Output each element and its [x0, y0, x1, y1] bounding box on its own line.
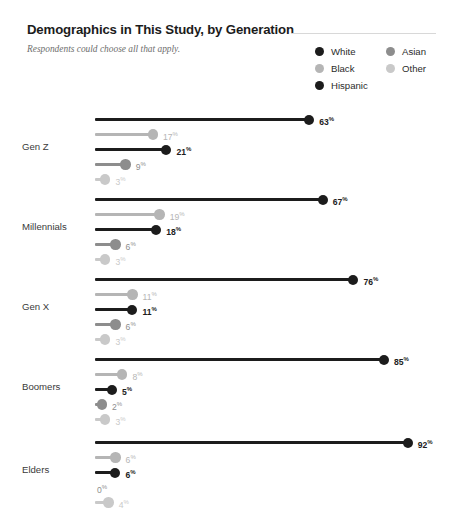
value-label: 18% — [166, 226, 181, 236]
value-label: 6% — [126, 321, 136, 331]
lollipop-dot[interactable] — [97, 399, 107, 409]
series-row-black[interactable]: 17% — [0, 127, 459, 142]
series-row-white[interactable]: 85% — [0, 352, 459, 367]
value-label: 6% — [125, 469, 135, 479]
value-label: 5% — [122, 386, 132, 396]
lollipop-dot[interactable] — [110, 468, 120, 478]
series-row-asian[interactable]: 0% — [0, 480, 459, 495]
lollipop-stem — [95, 358, 381, 360]
series-row-other[interactable]: 4% — [0, 495, 459, 510]
series-row-black[interactable]: 6% — [0, 450, 459, 465]
legend-item-hispanic[interactable]: Hispanic — [315, 77, 368, 93]
series-row-black[interactable]: 8% — [0, 367, 459, 382]
lollipop-stem — [95, 293, 129, 295]
series-row-white[interactable]: 63% — [0, 112, 459, 127]
legend-item-other[interactable]: Other — [386, 60, 426, 76]
legend-column-2: AsianOther — [386, 43, 426, 77]
lollipop-stem — [95, 441, 405, 443]
legend-item-white[interactable]: White — [315, 43, 368, 59]
series-row-asian[interactable]: 6% — [0, 317, 459, 332]
series-row-hispanic[interactable]: 6% — [0, 465, 459, 480]
lollipop-stem — [95, 213, 156, 215]
lollipop-dot[interactable] — [103, 497, 113, 507]
series-row-hispanic[interactable]: 11% — [0, 302, 459, 317]
value-label: 0% — [97, 484, 107, 494]
lollipop-dot[interactable] — [379, 355, 389, 365]
value-label: 6% — [126, 454, 136, 464]
series-row-white[interactable]: 67% — [0, 192, 459, 207]
chart-subtitle: Respondents could choose all that apply. — [27, 44, 180, 54]
lollipop-dot[interactable] — [304, 115, 314, 125]
legend-label: Other — [402, 63, 426, 74]
lollipop-dot[interactable] — [127, 305, 137, 315]
value-label: 4% — [119, 499, 129, 509]
series-row-asian[interactable]: 2% — [0, 397, 459, 412]
legend-label: Hispanic — [331, 80, 368, 91]
lollipop-dot[interactable] — [100, 414, 110, 424]
legend-label: White — [331, 46, 356, 57]
value-label: 17% — [163, 131, 178, 141]
value-label: 76% — [363, 276, 378, 286]
generation-group: Gen X76%11%11%6%3% — [0, 262, 459, 342]
lollipop-dot[interactable] — [110, 319, 120, 329]
generation-group: Gen Z63%17%21%9%3% — [0, 102, 459, 182]
value-label: 9% — [136, 161, 146, 171]
value-label: 2% — [112, 401, 122, 411]
lollipop-stem — [95, 148, 163, 150]
value-label: 19% — [170, 211, 185, 221]
series-row-white[interactable]: 76% — [0, 272, 459, 287]
lollipop-stem — [95, 163, 122, 165]
generation-group: Boomers85%8%5%2%3% — [0, 342, 459, 422]
legend-item-asian[interactable]: Asian — [386, 43, 426, 59]
generation-group: Millennials67%19%18%6%3% — [0, 182, 459, 262]
chart-plot-area: Gen Z63%17%21%9%3%Millennials67%19%18%6%… — [0, 100, 459, 527]
value-label: 11% — [143, 291, 157, 301]
value-label: 92% — [418, 439, 433, 449]
series-row-asian[interactable]: 6% — [0, 237, 459, 252]
lollipop-dot[interactable] — [127, 289, 137, 299]
lollipop-stem — [95, 278, 350, 280]
lollipop-dot[interactable] — [154, 209, 164, 219]
lollipop-dot[interactable] — [117, 369, 127, 379]
generation-group: Elders92%6%6%0%4% — [0, 425, 459, 505]
lollipop-stem — [95, 198, 320, 200]
lollipop-dot[interactable] — [151, 225, 161, 235]
lollipop-dot[interactable] — [403, 438, 413, 448]
value-label: 67% — [333, 196, 348, 206]
lollipop-dot[interactable] — [110, 452, 120, 462]
lollipop-dot[interactable] — [318, 195, 328, 205]
lollipop-stem — [95, 373, 119, 375]
legend-swatch-icon — [386, 47, 395, 56]
lollipop-stem — [95, 308, 129, 310]
legend-swatch-icon — [315, 47, 324, 56]
value-label: 63% — [319, 116, 334, 126]
lollipop-dot[interactable] — [348, 275, 358, 285]
series-row-hispanic[interactable]: 21% — [0, 142, 459, 157]
series-row-black[interactable]: 11% — [0, 287, 459, 302]
series-row-white[interactable]: 92% — [0, 435, 459, 450]
legend-label: Asian — [402, 46, 426, 57]
lollipop-dot[interactable] — [161, 145, 171, 155]
lollipop-stem — [95, 228, 153, 230]
lollipop-dot[interactable] — [120, 159, 130, 169]
chart-header: Demographics in This Study, by Generatio… — [0, 0, 459, 100]
lollipop-stem — [95, 118, 306, 120]
lollipop-dot[interactable] — [110, 239, 120, 249]
legend-item-black[interactable]: Black — [315, 60, 368, 76]
legend-label: Black — [331, 63, 354, 74]
lollipop-dot[interactable] — [148, 129, 158, 139]
value-label: 8% — [132, 371, 142, 381]
legend-swatch-icon — [315, 81, 324, 90]
legend-column-1: WhiteBlackHispanic — [315, 43, 368, 94]
series-row-hispanic[interactable]: 18% — [0, 222, 459, 237]
series-row-asian[interactable]: 9% — [0, 157, 459, 172]
legend-swatch-icon — [315, 64, 324, 73]
chart-legend: WhiteBlackHispanicAsianOther — [315, 43, 459, 95]
series-row-black[interactable]: 19% — [0, 207, 459, 222]
lollipop-dot[interactable] — [107, 385, 117, 395]
lollipop-stem — [95, 133, 150, 135]
page-title: Demographics in This Study, by Generatio… — [27, 22, 294, 37]
value-label: 11% — [142, 306, 156, 316]
series-row-hispanic[interactable]: 5% — [0, 382, 459, 397]
value-label: 85% — [394, 356, 409, 366]
